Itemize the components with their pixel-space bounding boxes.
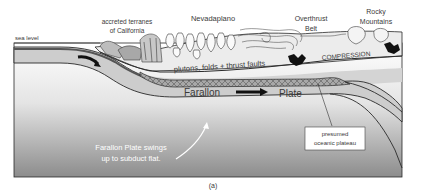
accreted-label-2: of California xyxy=(110,27,145,34)
overthrust-label-1: Overthrust xyxy=(295,15,328,22)
figure-caption: (a) xyxy=(209,182,218,190)
accreted-label-1: accreted terranes xyxy=(102,18,153,25)
farallon-label: Farallon xyxy=(184,87,220,98)
swing-label-1: Farallon Plate swings xyxy=(95,143,167,152)
plateau-label-1: presumed xyxy=(322,131,349,137)
plate-label: Plate xyxy=(279,88,302,99)
rocky-label-1: Rocky xyxy=(366,8,386,16)
tectonic-cross-section: sea level accreted terranes of Californi… xyxy=(0,0,422,192)
swing-label-2: up to subduct flat. xyxy=(101,154,160,163)
plateau-label-2: oceanic plateau xyxy=(314,140,356,146)
rocky-label-2: Mountains xyxy=(360,18,393,25)
sea-level-label: sea level xyxy=(15,35,39,41)
overthrust-label-2: Belt xyxy=(305,25,317,32)
nevadaplano-label: Nevadaplano xyxy=(191,14,235,23)
